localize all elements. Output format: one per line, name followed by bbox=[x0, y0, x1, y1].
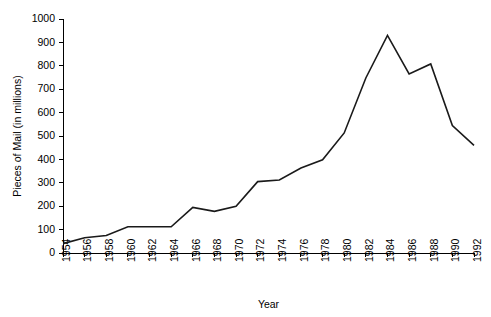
x-tick-label: 1968 bbox=[211, 238, 223, 262]
x-tick-label: 1982 bbox=[363, 238, 375, 262]
y-tick-label: 0 bbox=[49, 246, 55, 258]
data-series-line bbox=[63, 35, 474, 243]
y-tick-label: 300 bbox=[37, 176, 55, 188]
x-tick-label: 1980 bbox=[341, 238, 353, 262]
chart-container: 0100200300400500600700800900100019541956… bbox=[0, 0, 491, 317]
x-tick-label: 1966 bbox=[190, 238, 202, 262]
y-tick-label: 200 bbox=[37, 199, 55, 211]
x-tick-label: 1974 bbox=[276, 238, 288, 262]
x-tick-label: 1962 bbox=[146, 238, 158, 262]
y-tick-label: 100 bbox=[37, 223, 55, 235]
x-tick-label: 1972 bbox=[254, 238, 266, 262]
x-tick-label: 1988 bbox=[428, 238, 440, 262]
y-tick-label: 400 bbox=[37, 153, 55, 165]
y-axis-title: Pieces of Mail (in millions) bbox=[11, 75, 23, 196]
y-tick-label: 1000 bbox=[32, 12, 56, 24]
x-tick-label: 1978 bbox=[319, 238, 331, 262]
x-tick-label: 1970 bbox=[233, 238, 245, 262]
x-tick-label: 1984 bbox=[384, 238, 396, 262]
line-chart: 0100200300400500600700800900100019541956… bbox=[0, 0, 491, 317]
x-tick-label: 1992 bbox=[471, 238, 483, 262]
y-tick-label: 500 bbox=[37, 129, 55, 141]
y-tick-label: 600 bbox=[37, 106, 55, 118]
y-tick-label: 900 bbox=[37, 36, 55, 48]
x-tick-label: 1960 bbox=[125, 238, 137, 262]
x-tick-label: 1990 bbox=[449, 238, 461, 262]
y-tick-label: 800 bbox=[37, 59, 55, 71]
y-tick-label: 700 bbox=[37, 82, 55, 94]
x-tick-label: 1956 bbox=[81, 238, 93, 262]
x-tick-label: 1958 bbox=[103, 238, 115, 262]
x-tick-label: 1986 bbox=[406, 238, 418, 262]
x-tick-label: 1976 bbox=[298, 238, 310, 262]
x-axis-title: Year bbox=[258, 298, 280, 310]
x-tick-label: 1964 bbox=[168, 238, 180, 262]
